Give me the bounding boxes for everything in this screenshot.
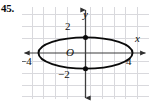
x-tick-label-minus-4: −4 [22,55,32,67]
y-tick-label-minus-2: −2 [58,68,70,80]
vertex-point-bottom [83,66,88,71]
origin-label: O [66,46,74,58]
y-axis-label: y [82,8,88,20]
vertex-point-top [83,35,88,40]
x-tick-label-4: 4 [126,55,132,67]
coordinate-plot: y x O 2 −2 −4 4 [22,3,149,103]
plot-svg: y x O 2 −2 −4 4 [22,3,149,103]
exercise-figure: 45. [0,0,149,103]
y-tick-label-2: 2 [65,20,71,32]
x-axis-label: x [134,32,140,44]
problem-number-label: 45. [1,2,14,14]
